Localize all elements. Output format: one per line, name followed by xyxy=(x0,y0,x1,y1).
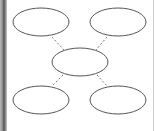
connector-top-left-center xyxy=(52,37,64,50)
connector-center-bottom-left xyxy=(52,75,63,86)
node-bottom-right[interactable] xyxy=(90,86,146,114)
node-top-left[interactable] xyxy=(13,8,69,36)
node-bottom-left[interactable] xyxy=(13,86,69,114)
node-top-right[interactable] xyxy=(90,8,146,36)
connector-top-right-center xyxy=(96,37,107,50)
nodes xyxy=(13,8,146,114)
bubble-map-diagram xyxy=(0,0,155,131)
connector-center-bottom-right xyxy=(97,75,107,86)
node-center[interactable] xyxy=(52,48,108,76)
